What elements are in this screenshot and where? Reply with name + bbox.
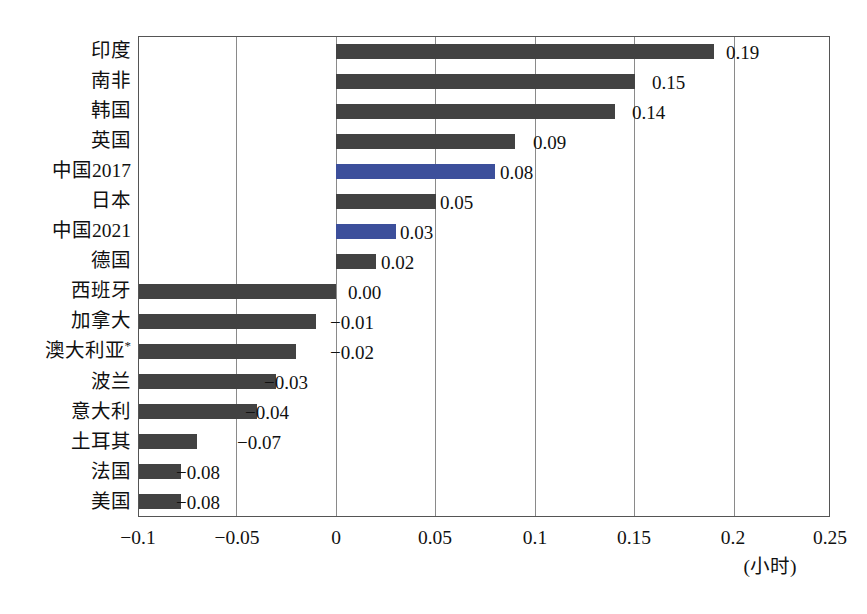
bar-chart: 印度 南非 韩国 英国 中国2017 日本 中国2021 德国 西班牙 加拿大 … [0,0,867,614]
value-label-12: −0.04 [245,403,289,422]
bar-row-2 [139,97,829,127]
category-label-10: 澳大利亚* [0,341,131,361]
bar-row-4 [139,157,829,187]
bar-5 [336,194,436,209]
bar-0 [336,44,714,59]
bar-7 [336,254,376,269]
category-label-3: 英国 [0,131,131,151]
value-label-10: −0.02 [330,343,374,362]
category-axis-labels: 印度 南非 韩国 英国 中国2017 日本 中国2021 德国 西班牙 加拿大 … [0,36,131,517]
bar-15 [139,494,181,509]
value-label-9: −0.01 [330,313,374,332]
bar-row-12 [139,397,829,427]
footnote-asterisk: * [125,338,132,353]
bar-1 [336,74,635,89]
bar-6 [336,224,396,239]
bar-13 [139,434,197,449]
bar-11 [139,374,276,389]
bar-14 [139,464,181,479]
bar-12 [139,404,257,419]
bar-row-11 [139,367,829,397]
value-label-5: 0.05 [440,193,473,212]
bar-row-7 [139,247,829,277]
xtick-5: 0.15 [617,527,651,549]
bar-row-10 [139,337,829,367]
category-label-7: 德国 [0,251,131,271]
xtick-4: 0.1 [523,527,547,549]
category-label-0: 印度 [0,41,131,61]
x-axis-tick-labels: −0.1 −0.05 0 0.05 0.1 0.15 0.2 0.25 [0,527,867,557]
bar-10 [139,344,296,359]
value-label-8: 0.00 [348,283,381,302]
category-label-1: 南非 [0,71,131,91]
x-axis-unit-label: (小时) [744,556,797,578]
value-label-6: 0.03 [400,223,433,242]
bar-row-9 [139,307,829,337]
bar-row-3 [139,127,829,157]
xtick-6: 0.2 [721,527,745,549]
value-label-2: 0.14 [632,103,665,122]
category-label-9: 加拿大 [0,311,131,331]
bar-4 [336,164,495,179]
category-label-4: 中国2017 [0,161,131,181]
value-label-14: −0.08 [176,463,220,482]
xtick-3: 0.05 [418,527,452,549]
value-label-11: −0.03 [264,373,308,392]
category-label-12: 意大利 [0,402,131,422]
bar-8 [139,284,336,299]
bar-9 [139,314,316,329]
value-label-7: 0.02 [381,253,414,272]
category-label-11: 波兰 [0,372,131,392]
value-label-0: 0.19 [726,43,759,62]
xtick-0: −0.1 [120,527,155,549]
bar-3 [336,134,515,149]
category-label-2: 韩国 [0,101,131,121]
bar-row-1 [139,67,829,97]
value-label-15: −0.08 [176,493,220,512]
bar-row-8 [139,277,829,307]
value-label-1: 0.15 [652,73,685,92]
xtick-1: −0.05 [214,527,259,549]
value-label-3: 0.09 [533,133,566,152]
category-label-8: 西班牙 [0,281,131,301]
bar-row-5 [139,187,829,217]
category-label-15: 美国 [0,492,131,512]
bar-row-15 [139,487,829,517]
value-label-4: 0.08 [500,163,533,182]
category-label-5: 日本 [0,191,131,211]
xtick-7: 0.25 [813,527,847,549]
value-label-13: −0.07 [237,433,281,452]
category-label-14: 法国 [0,462,131,482]
bar-2 [336,104,615,119]
bar-row-6 [139,217,829,247]
category-label-13: 土耳其 [0,432,131,452]
bar-row-14 [139,457,829,487]
xtick-2: 0 [331,527,341,549]
category-label-6: 中国2021 [0,221,131,241]
